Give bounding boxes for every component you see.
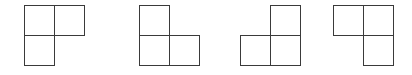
square-cell-top-right — [270, 5, 301, 36]
square-cell-top-left — [139, 5, 170, 36]
square-cell-bottom-left — [139, 35, 170, 66]
square-cell-bottom-right — [169, 35, 200, 66]
square-cell-top-right — [54, 5, 85, 36]
l-tromino-1 — [24, 5, 84, 67]
l-tromino-3 — [240, 5, 300, 67]
l-tromino-4 — [333, 5, 393, 67]
square-cell-bottom-right — [363, 35, 394, 66]
square-cell-bottom-left — [24, 35, 55, 66]
square-cell-bottom-right — [270, 35, 301, 66]
l-tromino-2 — [139, 5, 199, 67]
square-cell-top-right — [363, 5, 394, 36]
square-cell-top-left — [24, 5, 55, 36]
square-cell-top-left — [333, 5, 364, 36]
square-cell-bottom-left — [240, 35, 271, 66]
